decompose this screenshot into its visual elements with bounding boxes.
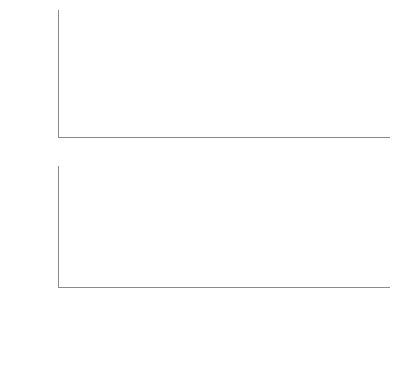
top-chart-plot-area xyxy=(58,10,390,138)
top-chart-bars xyxy=(58,10,390,138)
bottom-chart-bars xyxy=(58,166,390,288)
figure-root xyxy=(0,0,396,386)
bottom-chart-plot-area xyxy=(58,166,390,288)
bottom-chart-panel xyxy=(0,156,396,306)
top-chart-panel xyxy=(0,4,396,150)
x-axis-category-labels xyxy=(58,290,390,336)
